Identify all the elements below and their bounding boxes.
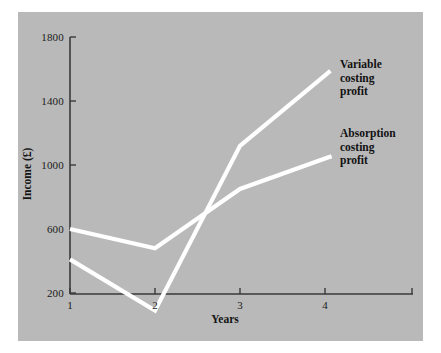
- series-line-variable-costing-profit: [70, 71, 330, 311]
- y-tick-label-1800: 1800: [28, 31, 64, 43]
- series-label-absorption-line-1: Absorption: [340, 127, 396, 141]
- series-label-variable-costing-profit: Variable costing profit: [340, 58, 382, 99]
- x-axis-title: Years: [160, 313, 290, 325]
- y-tick-label-1000: 1000: [28, 159, 64, 171]
- y-tick-label-200: 200: [28, 287, 64, 299]
- series-label-absorption-costing-profit: Absorption costing profit: [340, 127, 396, 168]
- series-label-variable-line-2: costing: [340, 72, 382, 86]
- y-tick-marks: [70, 37, 76, 293]
- series-label-absorption-line-2: costing: [340, 141, 396, 155]
- x-tick-label-4: 4: [315, 299, 335, 311]
- y-axis-title: Income (£): [21, 129, 33, 219]
- x-tick-label-1: 1: [60, 299, 80, 311]
- chart-figure: 1800 1400 1000 600 200 1 2 3 4 Income (£…: [0, 0, 441, 353]
- series-line-absorption-costing-profit: [70, 156, 332, 248]
- series-label-variable-line-1: Variable: [340, 58, 382, 72]
- series-label-absorption-line-3: profit: [340, 154, 396, 168]
- y-tick-label-600: 600: [28, 223, 64, 235]
- x-tick-label-2: 2: [145, 299, 165, 311]
- y-tick-label-1400: 1400: [28, 95, 64, 107]
- x-tick-label-3: 3: [230, 299, 250, 311]
- series-label-variable-line-3: profit: [340, 85, 382, 99]
